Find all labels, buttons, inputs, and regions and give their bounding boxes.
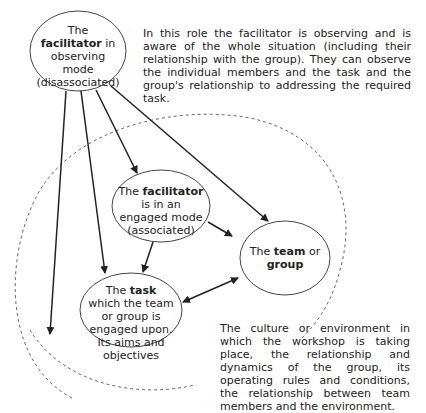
- engaged-label-post: is in an engaged mode (associated): [120, 198, 203, 237]
- task-label-pre: The: [106, 284, 130, 297]
- team-label: The team or group: [248, 245, 322, 271]
- observer-label-bold: facilitator: [41, 37, 102, 50]
- arrow-engaged-to-team: [208, 222, 232, 236]
- observer-label: The facilitator in observing mode (disas…: [36, 24, 120, 89]
- observer-note: In this role the facilitator is observin…: [143, 27, 411, 105]
- team-label-bold2: group: [267, 258, 304, 271]
- engaged-label-pre: The: [119, 185, 143, 198]
- arrow-task-team-bidirectional: [183, 278, 238, 302]
- arrow-observer-to-environment: [50, 91, 66, 334]
- arrow-engaged-to-task: [143, 242, 153, 272]
- observer-label-pre: The: [68, 24, 88, 37]
- arrow-observer-to-task: [81, 91, 105, 273]
- task-label-bold: task: [130, 284, 157, 297]
- task-label-post: which the team or group is engaged upon.…: [88, 297, 174, 362]
- team-label-mid: or: [305, 245, 320, 258]
- team-label-bold: team: [274, 245, 306, 258]
- environment-note: The culture or environment in which the …: [220, 322, 410, 413]
- team-label-pre: The: [250, 245, 274, 258]
- engaged-label: The facilitator is in an engaged mode (a…: [118, 185, 204, 237]
- task-label: The task which the team or group is enga…: [88, 284, 174, 362]
- engaged-label-bold: facilitator: [143, 185, 204, 198]
